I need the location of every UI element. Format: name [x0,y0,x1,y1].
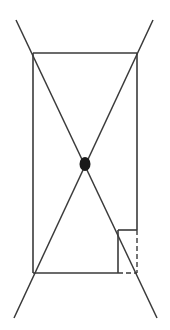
diagram-svg [0,0,170,330]
center-dot [80,157,91,171]
diagram-canvas [0,0,170,330]
